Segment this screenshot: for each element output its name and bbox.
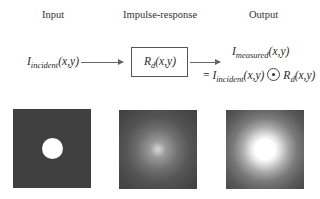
- header-input: Input: [42, 9, 64, 20]
- convolution-icon: [267, 68, 280, 81]
- incident-args: (x,y): [58, 55, 79, 67]
- incident-subscript: incident: [31, 60, 58, 70]
- measured-expression: Imeasured(x,y): [232, 45, 289, 60]
- measured-args: (x,y): [269, 45, 290, 57]
- response-expression: Rd(x,y): [144, 55, 176, 70]
- arrow-icon: [81, 62, 123, 63]
- response-args: (x,y): [295, 69, 316, 81]
- output-image: [226, 110, 304, 189]
- convolution-equation: = Iincident(x,y)Rd(x,y): [203, 68, 315, 84]
- header-impulse-response: Impulse-response: [123, 9, 197, 20]
- header-output: Output: [249, 9, 278, 20]
- incident-subscript: incident: [216, 74, 243, 84]
- input-image: [13, 109, 91, 188]
- impulse-response-image: [119, 110, 197, 189]
- equals-sign: =: [203, 69, 212, 81]
- response-args: (x,y): [155, 55, 176, 67]
- response-symbol: R: [144, 55, 151, 67]
- incident-args: (x,y): [244, 69, 265, 81]
- measured-subscript: measured: [236, 50, 269, 60]
- incident-expression: Iincident(x,y): [27, 55, 79, 70]
- input-disk: [42, 138, 63, 159]
- arrow-icon: [190, 62, 220, 63]
